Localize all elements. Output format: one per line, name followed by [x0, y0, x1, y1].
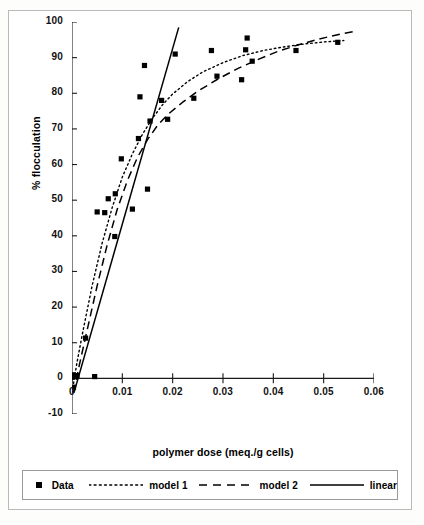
data-point-marker: [113, 191, 118, 196]
plot-area: -100102030405060708090100 00.010.020.030…: [72, 22, 374, 414]
legend-line-swatch-icon: [199, 479, 253, 491]
x-tick-label: 0.03: [200, 386, 246, 397]
data-point-marker: [245, 35, 250, 40]
y-tick-label: 10: [27, 336, 63, 347]
chart-legend: Datamodel 1model 2linear: [22, 470, 398, 500]
x-tick-label: 0.06: [351, 386, 397, 397]
y-tick-label: 50: [27, 193, 63, 204]
data-point-marker: [147, 118, 152, 123]
data-point-marker: [214, 74, 219, 79]
data-points-group: [72, 35, 340, 389]
data-point-marker: [74, 373, 79, 378]
data-point-marker: [335, 40, 340, 45]
y-tick-label: -10: [27, 407, 63, 418]
y-tick-label: 30: [27, 264, 63, 275]
legend-item-linear[interactable]: linear: [310, 479, 397, 491]
legend-item-label: model 1: [149, 480, 188, 491]
data-point-marker: [165, 117, 170, 122]
model-curves-group: [72, 27, 354, 392]
legend-item-label: Data: [52, 480, 74, 491]
axes-group: [72, 22, 374, 414]
legend-item-Data[interactable]: Data: [36, 479, 74, 491]
legend-item-model-2[interactable]: model 2: [199, 479, 298, 491]
data-point-marker: [243, 47, 248, 52]
y-axis-title: % flocculation: [30, 116, 42, 190]
data-point-marker: [95, 209, 100, 214]
legend-item-label: model 2: [259, 480, 298, 491]
data-point-marker: [191, 96, 196, 101]
data-point-marker: [112, 234, 117, 239]
data-point-marker: [136, 136, 141, 141]
data-point-marker: [293, 48, 298, 53]
data-point-marker: [137, 94, 142, 99]
square-marker-icon: [36, 482, 42, 488]
data-point-marker: [83, 335, 88, 340]
data-point-marker: [106, 196, 111, 201]
x-tick-label: 0.05: [301, 386, 347, 397]
y-tick-label: 40: [27, 229, 63, 240]
y-tick-label: 90: [27, 51, 63, 62]
y-tick-label: 20: [27, 300, 63, 311]
y-tick-label: 100: [27, 15, 63, 26]
x-tick-label: 0.02: [150, 386, 196, 397]
y-tick-label: 80: [27, 86, 63, 97]
data-point-marker: [173, 51, 178, 56]
legend-line-swatch-icon: [310, 479, 364, 491]
y-tick-label: 0: [27, 371, 63, 382]
legend-item-model-1[interactable]: model 1: [89, 479, 188, 491]
data-point-marker: [102, 210, 107, 215]
x-tick-label: 0.04: [250, 386, 296, 397]
x-tick-label: 0: [49, 386, 95, 397]
legend-item-label: linear: [370, 480, 397, 491]
data-point-marker: [145, 187, 150, 192]
x-axis-title: polymer dose (meq./g cells): [72, 446, 374, 458]
plot-svg: [72, 22, 374, 414]
x-tick-label: 0.01: [99, 386, 145, 397]
data-point-marker: [250, 59, 255, 64]
data-point-marker: [159, 98, 164, 103]
data-point-marker: [119, 156, 124, 161]
legend-line-swatch-icon: [89, 479, 143, 491]
curve-model-2: [74, 32, 354, 393]
legend-square-marker-icon: [36, 479, 46, 491]
data-point-marker: [130, 206, 135, 211]
data-point-marker: [142, 63, 147, 68]
data-point-marker: [209, 48, 214, 53]
data-point-marker: [92, 374, 97, 379]
curve-model-1: [72, 41, 344, 393]
data-point-marker: [239, 77, 244, 82]
figure-canvas: -100102030405060708090100 00.010.020.030…: [0, 0, 424, 525]
legend-items: Datamodel 1model 2linear: [23, 471, 397, 499]
curve-linear: [74, 27, 179, 392]
